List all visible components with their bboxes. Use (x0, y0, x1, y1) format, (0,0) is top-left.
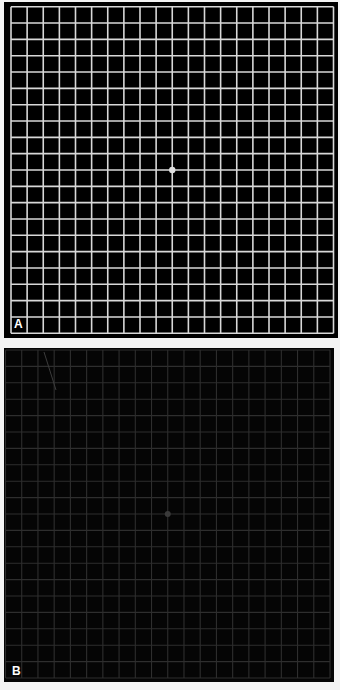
fixation-dot (169, 167, 175, 173)
amsler-grid-panel-b: B (4, 348, 334, 682)
fixation-dot (165, 511, 171, 517)
amsler-grid-panel-a: A (4, 2, 338, 338)
high-contrast-grid (4, 2, 338, 338)
panel-label-a: A (14, 318, 23, 330)
low-contrast-grid (4, 348, 334, 682)
panel-label-b: B (12, 665, 21, 677)
